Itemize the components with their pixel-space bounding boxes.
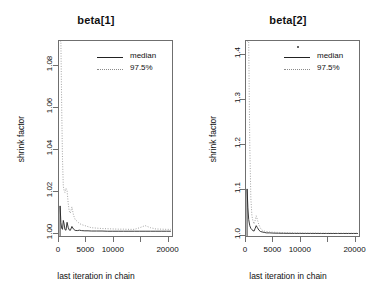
x-tick-label: 0 [56,245,60,254]
y-tick-label: 1.02 [46,182,55,198]
x-tick-label: 5000 [263,245,281,254]
y-tick-label: 1.1 [233,182,242,193]
y-tick-label: 1.2 [233,137,242,148]
y-axis: 1.01.11.21.31.4 [192,40,245,237]
legend-item-upper: 97.5% [284,64,356,76]
x-tick-label: 5000 [76,245,94,254]
legend-label-upper: 97.5% [130,63,153,72]
x-tick [327,237,328,242]
x-tick [355,237,356,242]
x-axis: 050001000020000 [245,237,360,259]
y-axis: 1.001.021.041.061.08 [0,40,58,237]
panel-beta-1: beta[1] shrink factor 1.001.021.041.061.… [0,0,192,301]
legend-key-dotted-icon [284,69,310,70]
legend-key-solid-icon [97,57,123,58]
y-tick-label: 1.08 [46,56,55,72]
legend: median 97.5% [284,52,356,76]
x-axis: 050001000020000 [58,237,173,259]
x-tick [300,237,301,242]
panel-title: beta[2] [192,14,384,26]
legend-label-upper: 97.5% [317,63,340,72]
legend-key-solid-icon [284,57,310,58]
x-axis-title: last iteration in chain [192,271,384,281]
x-tick [245,237,246,242]
legend: median 97.5% [97,52,169,76]
legend-item-upper: 97.5% [97,64,169,76]
y-tick-label: 1.04 [46,140,55,156]
panel-beta-2: beta[2] shrink factor 1.01.11.21.31.4 05… [192,0,384,301]
y-tick-label: 1.06 [46,98,55,114]
x-tick [85,237,86,242]
stray-speck-artifact [297,46,299,48]
legend-label-median: median [317,51,343,60]
x-tick [168,237,169,242]
gelman-shrink-factor-figure: beta[1] shrink factor 1.001.021.041.061.… [0,0,384,301]
y-tick-label: 1.4 [233,47,242,58]
x-tick-label: 0 [243,245,247,254]
x-tick-label: 10000 [102,245,124,254]
y-tick-label: 1.0 [233,228,242,239]
x-tick-label: 10000 [289,245,311,254]
x-axis-title: last iteration in chain [0,271,192,281]
legend-key-dotted-icon [97,69,123,70]
x-tick [272,237,273,242]
series-line-median [60,206,171,231]
panel-title: beta[1] [0,14,192,26]
y-tick-label: 1.3 [233,92,242,103]
legend-label-median: median [130,51,156,60]
y-tick-label: 1.00 [46,224,55,240]
x-tick [113,237,114,242]
series-line-median [247,189,358,234]
x-tick-label: 20000 [343,245,365,254]
x-tick-label: 20000 [156,245,178,254]
x-tick [58,237,59,242]
x-tick [140,237,141,242]
